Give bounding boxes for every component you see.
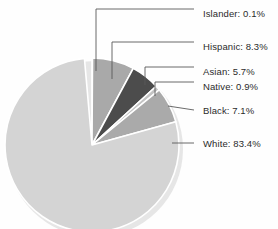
pie-label-asian: Asian: 5.7% [203,67,255,77]
pie-label-native: Native: 0.9% [203,82,258,92]
pie-label-white: White: 83.4% [203,139,261,149]
pie-label-islander: Islander: 0.1% [203,9,265,19]
pie-chart-figure: Islander: 0.1%Hispanic: 8.3%Asian: 5.7%N… [0,0,278,229]
pie-label-hispanic: Hispanic: 8.3% [203,42,268,52]
pie-label-black: Black: 7.1% [203,106,254,116]
